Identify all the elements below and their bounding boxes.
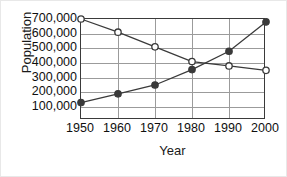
data-point-marker (189, 66, 195, 72)
y-axis-tick-label: 300,000 (19, 71, 77, 84)
plot-area (80, 18, 265, 119)
y-axis-tick-label: 100,000 (19, 100, 77, 113)
series-layer (81, 19, 266, 120)
x-axis-tick-labels: 195019601970198019902000 (1, 122, 287, 140)
series-line (81, 22, 266, 103)
x-axis-title: Year (80, 143, 265, 158)
y-axis-tick-label: 400,000 (19, 56, 77, 69)
data-point-marker (226, 63, 232, 69)
data-point-marker (78, 16, 84, 22)
data-point-marker (263, 67, 269, 73)
data-point-marker (263, 19, 269, 25)
data-point-marker (226, 48, 232, 54)
y-axis-tick-label: 200,000 (19, 85, 77, 98)
data-point-marker (115, 91, 121, 97)
data-point-marker (115, 29, 121, 35)
data-point-marker (152, 82, 158, 88)
y-axis-tick-label: 700,000 (19, 12, 77, 25)
y-axis-tick-label: 600,000 (19, 27, 77, 40)
y-axis-tick-labels: 700,000600,000500,000400,000300,000200,0… (19, 1, 77, 177)
data-point-marker (78, 99, 84, 105)
data-point-marker (152, 44, 158, 50)
y-axis-tick-label: 500,000 (19, 41, 77, 54)
data-point-marker (189, 58, 195, 64)
x-axis-tick-label: 2000 (242, 122, 287, 135)
chart-screenshot: Population 700,000600,000500,000400,0003… (0, 0, 287, 177)
